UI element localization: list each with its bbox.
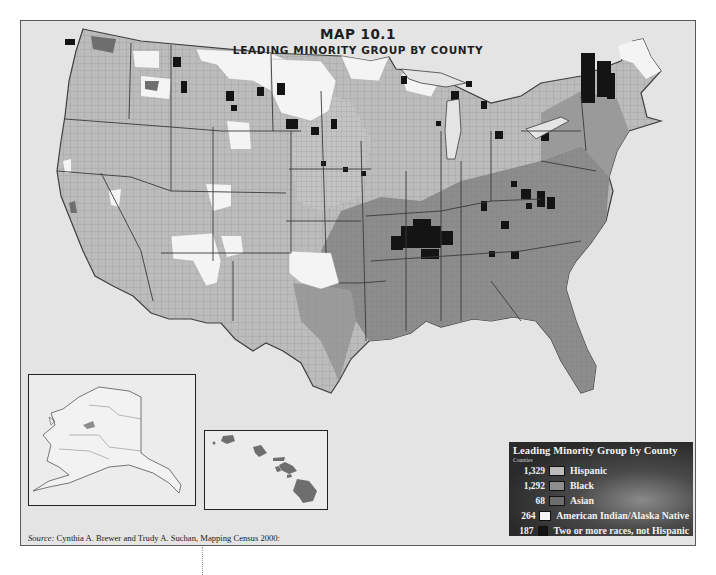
legend-count: 264 (513, 511, 539, 521)
legend-count: 68 (513, 496, 549, 506)
legend-title: Leading Minority Group by County (513, 445, 689, 457)
source-citation: Source: Cynthia A. Brewer and Trudy A. S… (28, 533, 280, 546)
map-title-block: MAP 10.1 LEADING MINORITY GROUP BY COUNT… (21, 25, 695, 58)
legend-label: Black (570, 480, 594, 491)
legend-item-hispanic: 1,329 Hispanic (513, 463, 689, 478)
legend-label: Hispanic (570, 465, 607, 476)
hawaii-inset (204, 430, 328, 510)
legend-count: 1,329 (513, 466, 549, 476)
legend-item-asian: 68 Asian (513, 493, 689, 508)
legend-swatch (549, 481, 565, 491)
source-line-2: The Geography of U.S. Diversity (ESRI Pr… (28, 544, 280, 547)
map-frame: MAP 10.1 LEADING MINORITY GROUP BY COUNT… (20, 20, 696, 546)
alaska-inset (28, 374, 196, 506)
source-line-1: Cynthia A. Brewer and Trudy A. Suchan, M… (54, 533, 280, 543)
legend-swatch (549, 496, 565, 506)
legend-label: American Indian/Alaska Native (556, 510, 689, 521)
legend-item-two-or-more: 187 Two or more races, not Hispanic (513, 523, 689, 538)
legend-item-american-indian: 264 American Indian/Alaska Native (513, 508, 689, 523)
legend-label: Two or more races, not Hispanic (553, 525, 689, 536)
legend-label: Asian (570, 495, 594, 506)
dotted-guide-line (202, 547, 203, 575)
legend-swatch (538, 526, 549, 536)
legend-count: 1,292 (513, 481, 549, 491)
map-title: LEADING MINORITY GROUP BY COUNTY (21, 43, 695, 58)
legend-swatch (549, 466, 565, 476)
legend-count: 187 (513, 526, 538, 536)
hawaii-map (205, 431, 326, 508)
legend-swatch (539, 511, 551, 521)
legend-item-black: 1,292 Black (513, 478, 689, 493)
map-number: MAP 10.1 (21, 25, 695, 43)
source-prefix: Source: (28, 533, 54, 543)
alaska-map (29, 375, 194, 504)
map-legend: Leading Minority Group by County Countie… (509, 442, 693, 536)
